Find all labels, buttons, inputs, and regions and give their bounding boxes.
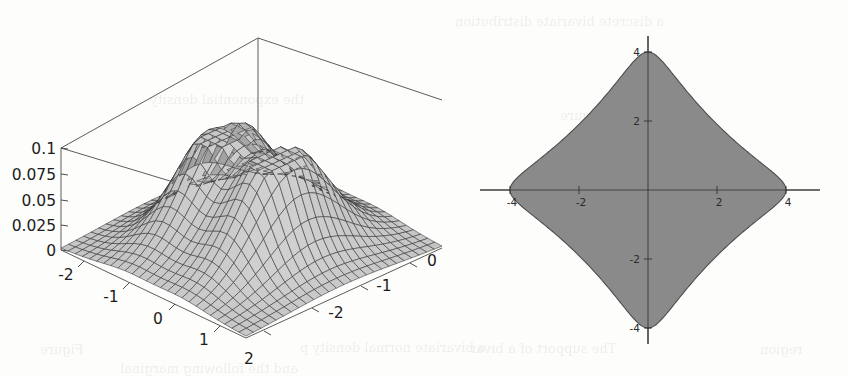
z-tick-label: 0.1 [31, 140, 56, 158]
2d-plot-canvas: -4 -2 2 4 4 2 -2 -4 [470, 30, 830, 350]
y-tick-label: -1 [376, 277, 391, 295]
z-tick-label: 0.075 [12, 166, 56, 184]
z-axis-ticks [61, 148, 68, 251]
z-tick-label: 0 [46, 242, 56, 260]
x-tick-label-2d: -4 [507, 196, 518, 208]
x-tick-label: 2 [244, 350, 254, 368]
x-tick-label: -1 [103, 288, 118, 306]
y-tick-label: -2 [328, 304, 343, 322]
x-tick-label-2d: 2 [716, 196, 723, 208]
y-tick-label-2d: 4 [633, 46, 640, 58]
x-tick-label: -2 [58, 266, 73, 284]
y-tick-label: 0 [427, 252, 437, 270]
z-axis-tick-labels: 0.1 0.075 0.05 0.025 0 [12, 140, 56, 260]
x-tick-label: 1 [199, 331, 209, 349]
z-tick-label: 0.05 [21, 192, 56, 210]
3d-surface-plot: 0.1 0.075 0.05 0.025 0 -2 -1 0 1 2 [18, 8, 438, 368]
y-tick-label-2d: 2 [633, 115, 640, 127]
y-tick-label-2d: -4 [630, 322, 641, 334]
x-tick-label-2d: 4 [785, 196, 792, 208]
x-tick-label-2d: -2 [576, 196, 586, 208]
z-tick-label: 0.025 [12, 217, 56, 235]
ghost-text-line: a discrete bivariate distribution [455, 14, 664, 29]
x-tick-label: 0 [153, 310, 163, 328]
3d-plot-canvas: 0.1 0.075 0.05 0.025 0 -2 -1 0 1 2 [18, 8, 438, 368]
2d-region-plot: -4 -2 2 4 4 2 -2 -4 [470, 30, 830, 350]
y-tick-label-2d: -2 [630, 253, 640, 265]
